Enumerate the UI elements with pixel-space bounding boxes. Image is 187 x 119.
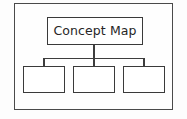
concept-node-1[interactable]: [23, 66, 65, 93]
concept-node-2-label: [74, 67, 114, 92]
concept-node-1-label: [24, 67, 64, 92]
connector-root-stem: [93, 45, 95, 58]
concept-node-3[interactable]: [123, 66, 165, 93]
concept-node-2[interactable]: [73, 66, 115, 93]
concept-node-3-label: [124, 67, 164, 92]
concept-map-root-node[interactable]: Concept Map: [47, 17, 143, 45]
concept-map-root-label: Concept Map: [53, 25, 136, 38]
diagram-canvas: Concept Map: [0, 0, 187, 119]
